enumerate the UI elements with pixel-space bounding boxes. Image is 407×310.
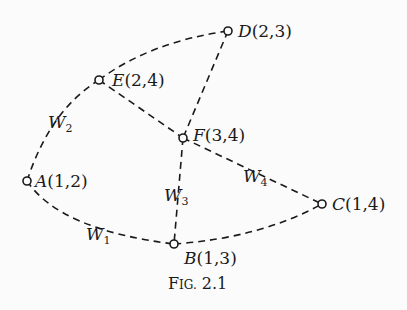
node-b [170,240,178,248]
figure-canvas: A(1,2) B(1,3) C(1,4) D(2,3) E(2,4) F(3,4… [0,0,407,310]
figure-caption: FIG.2.1 [168,274,227,293]
weight-w2: W2 [48,112,72,135]
label-d: D(2,3) [237,21,292,41]
label-e: E(2,4) [111,70,165,90]
label-c: C(1,4) [332,194,385,214]
label-f: F(3,4) [192,125,245,145]
label-b: B(1,3) [183,248,237,268]
weight-w1: W1 [86,224,110,247]
edge-b-c [174,204,322,244]
weight-w3: W3 [164,185,188,208]
node-d [224,27,232,35]
node-a [23,177,31,185]
edge-d-f [183,31,228,138]
node-e [95,76,103,84]
weight-w4: W4 [243,166,267,189]
node-c [318,200,326,208]
label-a: A(1,2) [33,171,88,191]
graph-diagram: A(1,2) B(1,3) C(1,4) D(2,3) E(2,4) F(3,4… [0,0,407,310]
node-f [179,134,187,142]
